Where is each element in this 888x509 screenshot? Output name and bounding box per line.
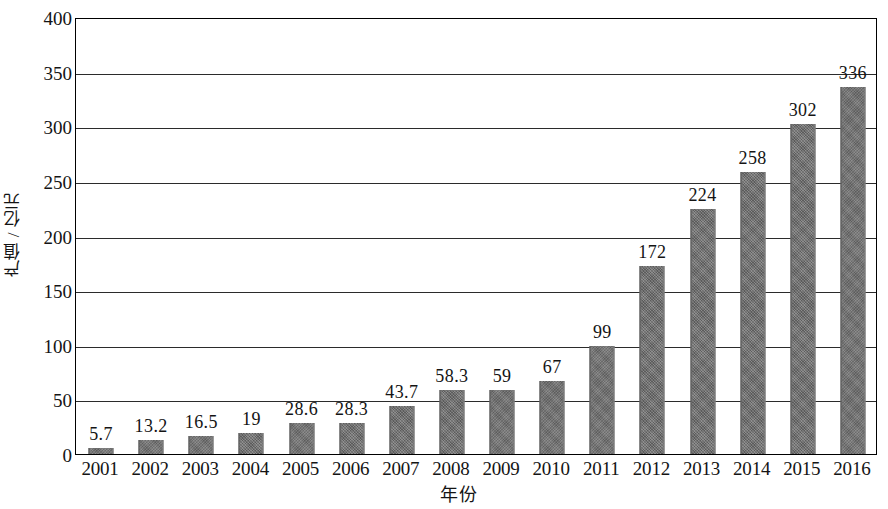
bar-group: 224: [678, 19, 728, 454]
y-tick-label: 200: [28, 227, 72, 246]
bar-value-label: 172: [638, 243, 666, 261]
x-tick-label: 2012: [626, 458, 676, 480]
bar-value-label: 336: [839, 64, 867, 82]
bar-group: 67: [527, 19, 577, 454]
x-tick-label: 2013: [677, 458, 727, 480]
x-tick-label: 2004: [225, 458, 275, 480]
bar[interactable]: [339, 423, 364, 454]
bar-group: 172: [627, 19, 677, 454]
bar[interactable]: [640, 266, 665, 454]
bar-group: 16.5: [176, 19, 226, 454]
y-tick-label: 100: [28, 336, 72, 355]
x-tick-label: 2003: [175, 458, 225, 480]
bar[interactable]: [690, 209, 715, 454]
bar[interactable]: [239, 433, 264, 454]
bar-series: 5.713.216.51928.628.343.758.359679917222…: [76, 19, 876, 454]
bar-chart: 产值 / 亿元 050100150200250300350400 5.713.2…: [0, 0, 888, 509]
bar-value-label: 224: [688, 186, 716, 204]
bar[interactable]: [139, 440, 164, 454]
y-tick-label: 300: [28, 118, 72, 137]
x-tick-label: 2014: [727, 458, 777, 480]
bar[interactable]: [439, 390, 464, 454]
bar-group: 5.7: [76, 19, 126, 454]
bar-value-label: 28.6: [285, 400, 318, 418]
bar-group: 59: [477, 19, 527, 454]
y-tick-label: 250: [28, 172, 72, 191]
bar[interactable]: [540, 381, 565, 454]
bar-value-label: 58.3: [435, 367, 468, 385]
bar-value-label: 67: [543, 358, 562, 376]
y-tick-label: 50: [28, 391, 72, 410]
y-tick-label: 150: [28, 282, 72, 301]
x-tick-label: 2009: [476, 458, 526, 480]
bar-value-label: 19: [242, 410, 261, 428]
x-tick-label: 2005: [276, 458, 326, 480]
bar[interactable]: [189, 436, 214, 454]
bar-value-label: 5.7: [89, 425, 113, 443]
bar-group: 28.6: [277, 19, 327, 454]
y-axis-tick-labels: 050100150200250300350400: [22, 0, 72, 509]
bar[interactable]: [740, 172, 765, 454]
bar-value-label: 13.2: [135, 417, 168, 435]
x-tick-label: 2010: [526, 458, 576, 480]
plot-area: 5.713.216.51928.628.343.758.359679917222…: [75, 18, 877, 455]
bar-group: 99: [577, 19, 627, 454]
x-axis-title-text: 年份: [440, 485, 478, 505]
y-tick-label: 400: [28, 9, 72, 28]
bar[interactable]: [590, 346, 615, 454]
bar[interactable]: [289, 423, 314, 454]
y-tick-label: 0: [28, 446, 72, 465]
bar-group: 19: [226, 19, 276, 454]
bar[interactable]: [89, 448, 114, 454]
x-axis-title: 年份: [0, 480, 888, 506]
x-tick-label: 2002: [125, 458, 175, 480]
x-tick-label: 2001: [75, 458, 125, 480]
bar-group: 336: [828, 19, 878, 454]
bar-value-label: 28.3: [335, 400, 368, 418]
x-tick-label: 2006: [326, 458, 376, 480]
bar-value-label: 302: [789, 101, 817, 119]
bar-group: 258: [728, 19, 778, 454]
x-tick-label: 2015: [777, 458, 827, 480]
x-tick-label: 2007: [376, 458, 426, 480]
bar[interactable]: [389, 406, 414, 454]
bar-value-label: 16.5: [185, 413, 218, 431]
bar[interactable]: [490, 390, 515, 454]
bar[interactable]: [840, 87, 865, 454]
x-tick-label: 2016: [827, 458, 877, 480]
y-tick-label: 350: [28, 63, 72, 82]
x-tick-label: 2011: [576, 458, 626, 480]
bar-value-label: 59: [493, 367, 512, 385]
bar-group: 43.7: [377, 19, 427, 454]
bar-group: 13.2: [126, 19, 176, 454]
bar-group: 302: [778, 19, 828, 454]
bar-value-label: 43.7: [385, 383, 418, 401]
x-tick-label: 2008: [426, 458, 476, 480]
bar-value-label: 258: [739, 149, 767, 167]
bar[interactable]: [790, 124, 815, 454]
bar-value-label: 99: [593, 323, 612, 341]
bar-group: 28.3: [327, 19, 377, 454]
bar-group: 58.3: [427, 19, 477, 454]
